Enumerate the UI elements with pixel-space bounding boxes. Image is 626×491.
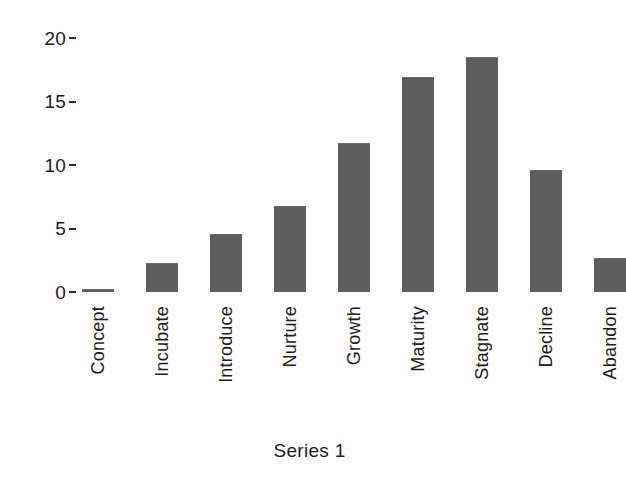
y-axis-tick-mark <box>69 228 76 230</box>
x-axis-tick-label: Decline <box>536 306 557 367</box>
y-axis-tick-label: 0 <box>55 282 66 301</box>
y-axis-tick-label: 5 <box>55 219 66 238</box>
y-axis: 05101520 <box>0 0 82 491</box>
x-axis-tick-label: Abandon <box>600 306 621 379</box>
x-axis-tick: Incubate <box>146 300 178 425</box>
series-caption: Series 1 <box>0 440 619 462</box>
bar <box>146 263 178 292</box>
x-axis-labels: ConceptIncubateIntroduceNurtureGrowthMat… <box>82 300 619 425</box>
bar <box>594 258 626 292</box>
y-axis-tick-label: 20 <box>44 28 66 47</box>
y-axis-tick-label: 10 <box>44 155 66 174</box>
bar <box>338 143 370 292</box>
bar <box>274 206 306 292</box>
x-axis-tick-label: Maturity <box>408 306 429 372</box>
x-axis-tick: Abandon <box>594 300 626 425</box>
y-axis-tick-mark <box>69 164 76 166</box>
bar <box>402 77 434 292</box>
plot-area <box>82 0 619 292</box>
x-axis-tick-label: Introduce <box>216 306 237 383</box>
y-axis-tick-mark <box>69 37 76 39</box>
x-axis-tick-label: Nurture <box>280 306 301 367</box>
x-axis-tick-label: Growth <box>344 306 365 365</box>
bar <box>466 57 498 292</box>
x-axis-tick: Stagnate <box>466 300 498 425</box>
x-axis-tick: Decline <box>530 300 562 425</box>
x-axis-tick: Introduce <box>210 300 242 425</box>
x-axis-tick-label: Incubate <box>152 306 173 377</box>
bar <box>530 170 562 292</box>
x-axis-tick: Concept <box>82 300 114 425</box>
x-axis-tick-label: Stagnate <box>472 306 493 380</box>
x-axis-tick-label: Concept <box>88 306 109 374</box>
y-axis-tick-mark <box>69 101 76 103</box>
bar <box>210 234 242 292</box>
x-axis-tick: Maturity <box>402 300 434 425</box>
bar <box>82 289 114 292</box>
x-axis-tick: Nurture <box>274 300 306 425</box>
y-axis-tick-mark <box>69 291 76 293</box>
y-axis-tick-label: 15 <box>44 92 66 111</box>
x-axis-tick: Growth <box>338 300 370 425</box>
